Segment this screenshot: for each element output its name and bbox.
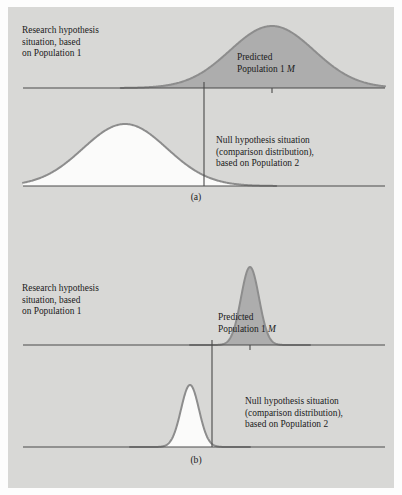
hypothesis-testing-figure: Research hypothesis situation, based on … (0, 0, 402, 495)
panel-b-letter: (b) (190, 454, 201, 466)
panel-a-letter: (a) (191, 191, 202, 203)
